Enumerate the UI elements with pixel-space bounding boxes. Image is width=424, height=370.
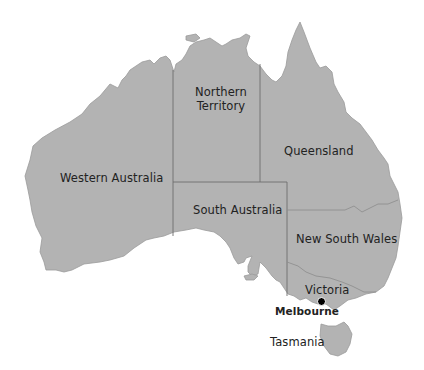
tiwi-islands xyxy=(186,34,200,42)
australia-map xyxy=(0,0,424,370)
label-northern-territory-line2: Territory xyxy=(195,99,247,113)
label-south-australia: South Australia xyxy=(193,203,282,217)
label-new-south-wales: New South Wales xyxy=(296,232,397,246)
label-western-australia: Western Australia xyxy=(60,171,163,185)
label-tasmania: Tasmania xyxy=(270,335,325,349)
label-melbourne: Melbourne xyxy=(275,304,339,318)
mainland-landmass xyxy=(25,22,402,310)
label-northern-territory-line1: Northern xyxy=(195,85,247,99)
label-queensland: Queensland xyxy=(284,144,354,158)
kangaroo-island xyxy=(244,274,258,280)
city-dot-icon xyxy=(317,297,326,306)
label-victoria: Victoria xyxy=(305,283,349,297)
label-northern-territory: Northern Territory xyxy=(195,85,247,113)
